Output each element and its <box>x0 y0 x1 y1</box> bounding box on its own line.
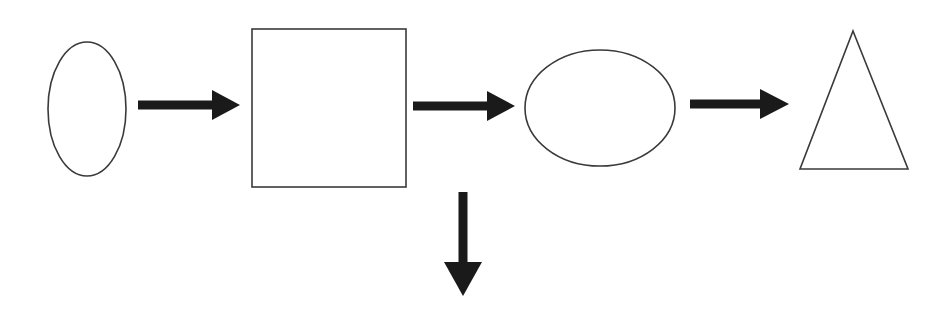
node-ellipse-vertical[interactable] <box>48 42 126 176</box>
ellipse-shape[interactable] <box>525 50 675 166</box>
flow-diagram-svg <box>0 0 950 322</box>
node-rectangle[interactable] <box>252 29 406 187</box>
arrow-shaft <box>413 102 489 111</box>
arrow-shaft <box>138 101 214 110</box>
rectangle-shape[interactable] <box>252 29 406 187</box>
arrow-shaft <box>690 100 762 109</box>
ellipse-shape[interactable] <box>48 42 126 176</box>
diagram-canvas <box>0 0 950 322</box>
arrow-shaft <box>459 192 468 263</box>
node-ellipse-horizontal[interactable] <box>525 50 675 166</box>
